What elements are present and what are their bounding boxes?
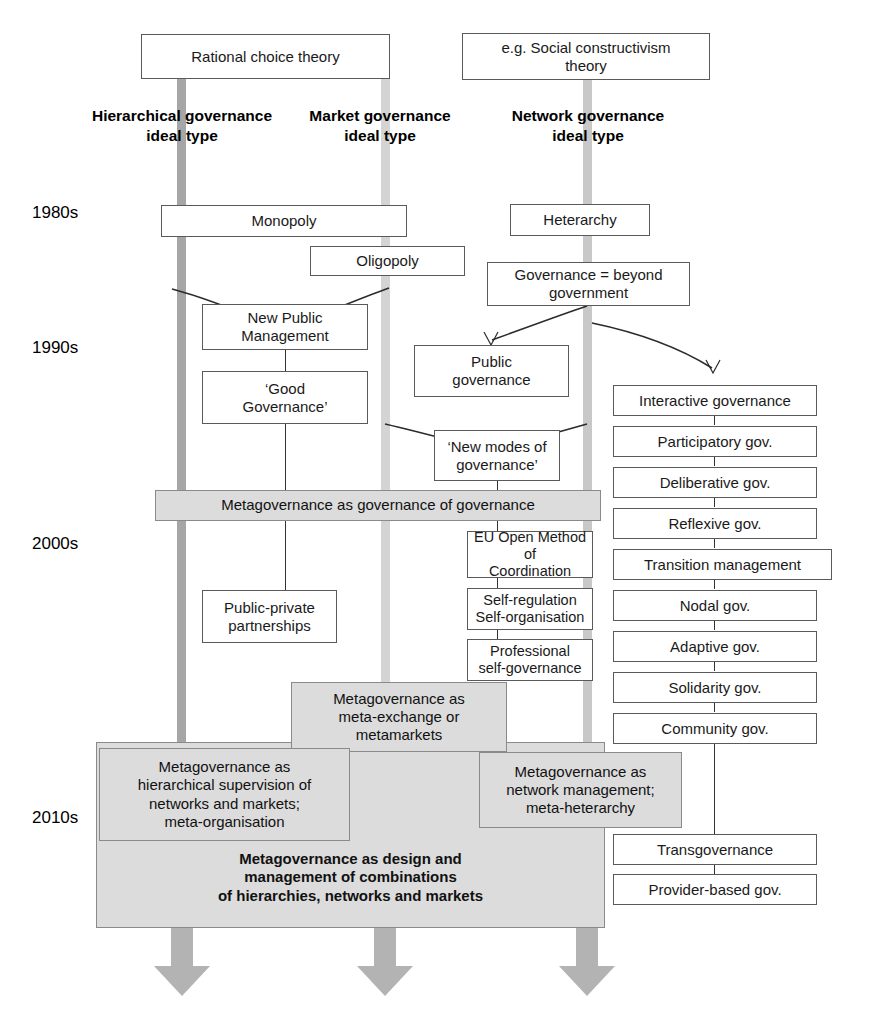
decade-label-1980s: 1980s [32,203,78,223]
connector-nodal-to-adaptive [714,621,715,630]
node-participatory-gov: Participatory gov. [613,426,817,457]
meta-box-hierarchical-supervision: Metagovernance as hierarchical supervisi… [99,748,350,841]
connector-solidarity-to-community [714,703,715,712]
node-interactive-governance: Interactive governance [613,385,817,416]
meta-box-governance-of-governance: Metagovernance as governance of governan… [155,490,601,521]
connector-transition-to-nodal [714,580,715,589]
connector-community-to-transgovernance [714,744,715,834]
decade-label-2010s: 2010s [32,808,78,828]
node-self-regulation-self-organisation: Self-regulation Self-organisation [467,588,593,630]
node-deliberative-gov: Deliberative gov. [613,467,817,498]
connector-npm-to-good-governance [285,349,286,371]
decade-label-1990s: 1990s [32,338,78,358]
node-transition-management: Transition management [613,549,832,580]
connector-participatory-to-deliberative [714,457,715,466]
connector-reflexive-to-transition [714,539,715,548]
node-adaptive-gov: Adaptive gov. [613,631,817,662]
decade-label-2000s: 2000s [32,534,78,554]
node-new-public-management: New Public Management [202,304,368,350]
node-eu-open-method-of-coordination: EU Open Method of Coordination [467,531,593,578]
node-professional-self-governance: Professional self-governance [467,639,593,681]
node-transgovernance: Transgovernance [613,834,817,865]
node-nodal-gov: Nodal gov. [613,590,817,621]
node-governance-beyond-government: Governance = beyond government [487,262,690,306]
node-community-gov: Community gov. [613,713,817,744]
node-public-private-partnerships: Public-private partnerships [202,590,337,643]
meta-box-network-management: Metagovernance as network management; me… [479,752,682,828]
connector-adaptive-to-solidarity [714,662,715,671]
node-solidarity-gov: Solidarity gov. [613,672,817,703]
column-label-network-governance: Network governance ideal type [492,106,684,146]
column-label-market-governance: Market governance ideal type [289,106,471,146]
connector-interactive-to-participatory [714,416,715,425]
governance-evolution-diagram: Rational choice theory e.g. Social const… [0,0,875,1023]
meta-box-meta-exchange: Metagovernance as meta-exchange or metam… [291,682,507,752]
node-heterarchy: Heterarchy [510,204,650,236]
theory-box-rational-choice: Rational choice theory [141,34,390,79]
node-provider-based-gov: Provider-based gov. [613,874,817,905]
node-monopoly: Monopoly [161,205,407,237]
theory-box-social-constructivism: e.g. Social constructivism theory [462,33,710,80]
connector-transgovernance-to-provider [714,865,715,874]
node-good-governance: ‘Good Governance’ [202,371,368,424]
node-public-governance: Public governance [414,345,569,397]
node-reflexive-gov: Reflexive gov. [613,508,817,539]
connector-selfreg-to-prof [497,630,498,639]
node-new-modes-of-governance: ‘New modes of governance’ [434,430,560,481]
column-label-hierarchical-governance: Hierarchical governance ideal type [72,106,292,146]
connector-deliberative-to-reflexive [714,498,715,507]
node-oligopoly: Oligopoly [310,246,465,276]
